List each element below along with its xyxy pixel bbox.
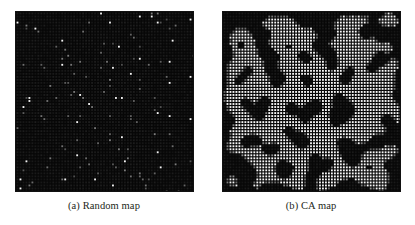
ca-map-canvas: [223, 12, 401, 192]
panel-ca-map: (b) CA map: [208, 0, 415, 212]
random-map-image: [15, 11, 194, 192]
caption-ca-map: (b) CA map: [286, 199, 337, 212]
panel-random-map: (a) Random map: [1, 0, 208, 212]
ca-map-image: [222, 11, 401, 192]
figure-two-panel-maps: (a) Random map (b) CA map: [0, 0, 415, 225]
caption-random-map: (a) Random map: [68, 199, 140, 212]
random-map-canvas: [16, 12, 194, 192]
